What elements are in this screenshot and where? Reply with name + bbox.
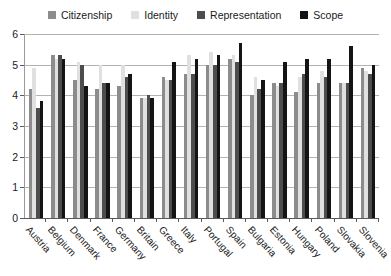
bar-scope-germany [128, 74, 132, 218]
bar-groups [25, 34, 379, 218]
grouped-bar-chart: CitizenshipIdentityRepresentationScope A… [0, 0, 391, 276]
x-label-cell: France [91, 222, 113, 276]
y-tick-mark [20, 187, 24, 188]
bar-scope-belgium [62, 59, 66, 218]
y-tick-label: 4 [0, 89, 18, 101]
x-label-cell: Slovenia [357, 222, 379, 276]
legend-swatch-identity-icon [131, 11, 139, 19]
bar-scope-estonia [283, 62, 287, 218]
x-label-cell: Poland [312, 222, 334, 276]
bar-group [69, 34, 91, 218]
bar-group [91, 34, 113, 218]
x-label-cell: Belgium [46, 222, 68, 276]
bar-scope-slovakia [349, 46, 353, 218]
x-tick-label: Italy [179, 224, 199, 245]
legend-item-citizenship: Citizenship [48, 10, 112, 21]
legend-swatch-scope-icon [300, 11, 308, 19]
x-label-cell: Germany [113, 222, 135, 276]
bar-group [313, 34, 335, 218]
bar-scope-denmark [84, 86, 88, 218]
bar-scope-britain [150, 98, 154, 218]
plot-area [24, 34, 379, 218]
legend-label: Identity [144, 10, 178, 21]
bar-scope-greece [172, 62, 176, 218]
bar-group [335, 34, 357, 218]
legend-label: Citizenship [61, 10, 112, 21]
bar-group [224, 34, 246, 218]
bar-scope-hungary [305, 59, 309, 218]
y-tick-label: 3 [0, 120, 18, 132]
legend-label: Representation [210, 10, 281, 21]
bar-scope-poland [327, 59, 331, 218]
x-label-cell: Denmark [68, 222, 90, 276]
x-label-cell: Italy [179, 222, 201, 276]
x-axis-labels: AustriaBelgiumDenmarkFranceGermanyBritai… [24, 222, 379, 276]
bar-group [268, 34, 290, 218]
x-label-cell: Bulgaria [246, 222, 268, 276]
x-label-cell: Greece [157, 222, 179, 276]
bar-group [47, 34, 69, 218]
x-label-cell: Britain [135, 222, 157, 276]
x-label-cell: Estonia [268, 222, 290, 276]
bar-group [25, 34, 47, 218]
legend-swatch-citizenship-icon [48, 11, 56, 19]
bar-scope-spain [239, 43, 243, 218]
y-tick-label: 1 [0, 181, 18, 193]
bar-scope-austria [40, 101, 44, 218]
bar-group [180, 34, 202, 218]
y-tick-mark [20, 218, 24, 219]
x-label-cell: Slovakia [335, 222, 357, 276]
y-tick-label: 5 [0, 59, 18, 71]
bar-group [291, 34, 313, 218]
bar-scope-portugal [217, 55, 221, 218]
bar-scope-bulgaria [261, 80, 265, 218]
y-tick-mark [20, 65, 24, 66]
legend-label: Scope [313, 10, 343, 21]
bar-scope-italy [195, 59, 199, 218]
x-label-cell: Spain [224, 222, 246, 276]
bar-scope-slovenia [372, 65, 376, 218]
chart-legend: CitizenshipIdentityRepresentationScope [0, 4, 391, 26]
bar-group [114, 34, 136, 218]
legend-swatch-representation-icon [197, 11, 205, 19]
bar-scope-france [106, 83, 110, 218]
y-tick-mark [20, 157, 24, 158]
x-tick-label: Slovenia [357, 224, 391, 260]
bar-group [158, 34, 180, 218]
x-label-cell: Hungary [290, 222, 312, 276]
y-tick-mark [20, 34, 24, 35]
bar-group [202, 34, 224, 218]
y-tick-mark [20, 95, 24, 96]
bar-group [246, 34, 268, 218]
y-tick-mark [20, 126, 24, 127]
bar-group [136, 34, 158, 218]
y-tick-label: 0 [0, 212, 18, 224]
legend-item-scope: Scope [300, 10, 343, 21]
legend-item-identity: Identity [131, 10, 178, 21]
y-tick-label: 6 [0, 28, 18, 40]
x-label-cell: Portugal [202, 222, 224, 276]
bar-group [357, 34, 379, 218]
legend-item-representation: Representation [197, 10, 281, 21]
y-tick-label: 2 [0, 151, 18, 163]
x-label-cell: Austria [24, 222, 46, 276]
